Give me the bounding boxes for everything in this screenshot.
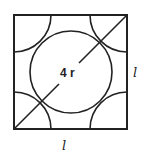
side-label-right: l [133, 65, 137, 80]
diagonal-line-upper [79, 15, 127, 63]
diagonal-label: 4 r [60, 66, 75, 80]
side-label-bottom: l [62, 138, 66, 153]
corner-arc-top-left [0, 0, 51, 52]
fcc-face-diagram: 4 r l l [0, 0, 148, 155]
diagonal-line-lower [14, 84, 59, 129]
